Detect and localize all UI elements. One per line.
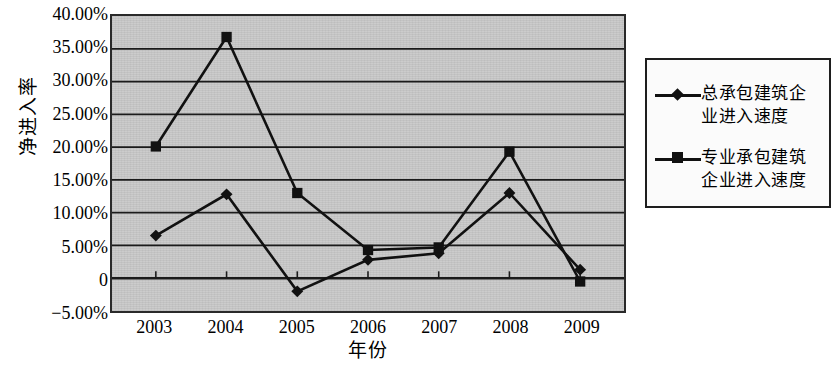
legend-label-total-contracting: 总承包建筑企 业进入速度 [701, 82, 806, 128]
x-axis-title: 年份 [110, 340, 626, 362]
x-tick-label: 2003 [114, 316, 194, 338]
gridlines [112, 49, 624, 278]
y-tick-label: −5.00% [12, 304, 108, 322]
data-point-diamond [362, 254, 374, 266]
x-tick-label: 2006 [328, 316, 408, 338]
data-point-square [151, 141, 161, 151]
x-tick-label: 2004 [185, 316, 265, 338]
x-axis-tick-labels: 2003200420052006200720082009 [110, 316, 626, 340]
x-tick-label: 2008 [471, 316, 551, 338]
data-point-square [575, 276, 585, 286]
legend-diamond-marker-icon [655, 84, 701, 106]
series-markers [150, 32, 586, 297]
x-tick-label: 2007 [399, 316, 479, 338]
y-tick-label: 35.00% [12, 38, 108, 56]
y-tick-label: 5.00% [12, 238, 108, 256]
chart-legend: 总承包建筑企 业进入速度 专业承包建筑 企业进入速度 [645, 58, 831, 208]
y-tick-label: 20.00% [12, 138, 108, 156]
plot-svg [112, 16, 624, 311]
y-tick-label: 40.00% [12, 5, 108, 23]
data-point-square [504, 147, 514, 157]
data-point-square [363, 245, 373, 255]
y-tick-label: 0 [12, 271, 108, 289]
data-point-square [221, 32, 231, 42]
y-tick-label: 30.00% [12, 71, 108, 89]
data-point-square [434, 242, 444, 252]
x-tick-label: 2005 [257, 316, 337, 338]
chart-figure: 净进入率 40.00%35.00%30.00%25.00%20.00%15.00… [0, 0, 833, 367]
y-axis-tick-labels: 40.00%35.00%30.00%25.00%20.00%15.00%10.0… [12, 0, 108, 367]
legend-label-specialty-contracting: 专业承包建筑 企业进入速度 [701, 146, 806, 192]
y-tick-label: 10.00% [12, 204, 108, 222]
data-point-square [292, 188, 302, 198]
plot-area [110, 14, 626, 313]
y-tick-label: 25.00% [12, 105, 108, 123]
y-tick-label: 15.00% [12, 171, 108, 189]
legend-entry-specialty-contracting: 专业承包建筑 企业进入速度 [655, 146, 827, 192]
legend-square-marker-icon [655, 148, 701, 170]
legend-entry-total-contracting: 总承包建筑企 业进入速度 [655, 82, 827, 128]
x-tick-label: 2009 [542, 316, 622, 338]
data-point-diamond [150, 230, 162, 242]
